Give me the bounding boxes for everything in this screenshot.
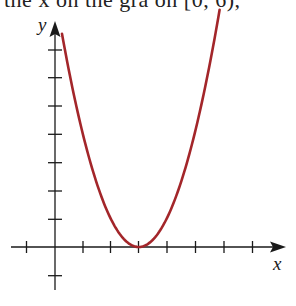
x-axis: x bbox=[11, 241, 286, 274]
parabola-plot: x y bbox=[0, 0, 296, 306]
parabola-curve bbox=[62, 10, 220, 247]
y-axis: y bbox=[36, 14, 62, 290]
y-axis-label: y bbox=[36, 14, 47, 35]
x-axis-label: x bbox=[272, 253, 282, 274]
